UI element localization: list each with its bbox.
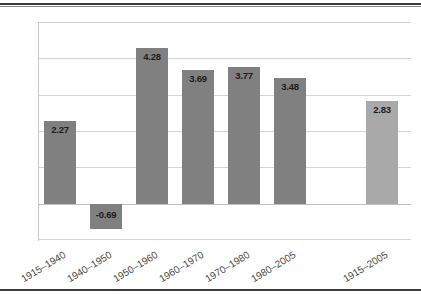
bar-1980-2005[interactable]: 3.48 — [274, 78, 306, 204]
bar-1950-1960[interactable]: 4.28 — [136, 48, 168, 204]
bar-chart-figure: 5.00 4.00 3.00 2.00 1.00 0.00 -1.00 2.27… — [0, 0, 421, 295]
bar-1960-1970[interactable]: 3.69 — [182, 70, 214, 204]
bar-value-label: 2.83 — [366, 104, 398, 115]
plot-area: 2.27 -0.69 4.28 3.69 3.77 3.48 2.83 — [38, 22, 411, 240]
bar-value-label: -0.69 — [90, 209, 122, 220]
bar-value-label: 3.48 — [274, 81, 306, 92]
x-axis-tick-labels: 1915–1940 1940–1950 1950–1960 1960–1970 … — [0, 241, 421, 293]
x-tick-label-1915-2005: 1915–2005 — [326, 249, 390, 293]
bar-value-label: 3.69 — [182, 73, 214, 84]
bar-1970-1980[interactable]: 3.77 — [228, 67, 260, 204]
bar-1915-2005[interactable]: 2.83 — [366, 101, 398, 204]
bar-value-label: 3.77 — [228, 70, 260, 81]
gridline-2 — [38, 131, 411, 132]
bar-1915-1940[interactable]: 2.27 — [44, 121, 76, 204]
gridline-4 — [38, 58, 411, 59]
gridline-minus-1 — [38, 239, 411, 240]
gridline-5 — [38, 22, 411, 23]
gridline-3 — [38, 95, 411, 96]
bar-value-label: 2.27 — [44, 124, 76, 135]
gridline-1 — [38, 167, 411, 168]
bar-value-label: 4.28 — [136, 51, 168, 62]
bar-1940-1950[interactable]: -0.69 — [90, 204, 122, 229]
